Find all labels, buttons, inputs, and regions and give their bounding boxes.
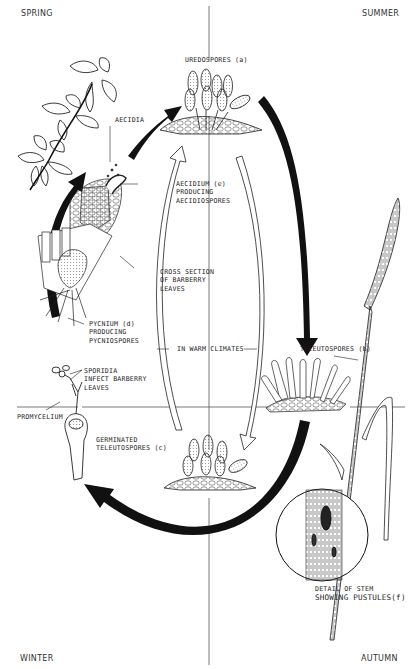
uredospores-illustration bbox=[160, 69, 262, 134]
label-aecidium-line1: AECIDIUM (e) bbox=[176, 180, 230, 188]
label-pycnium-line3: PYCNIOSPORES bbox=[89, 337, 139, 345]
pycnium-cross-section bbox=[38, 224, 112, 326]
label-warm-climates: IN WARM CLIMATES bbox=[177, 345, 244, 353]
rust-life-cycle-diagram: SPRING SUMMER WINTER AUTUMN UREDOSPORES … bbox=[0, 0, 416, 669]
label-uredospores: UREDOSPORES (a) bbox=[185, 56, 248, 64]
label-cross-section-line2: OF BARBERRY bbox=[160, 276, 214, 284]
label-cross-section-line1: CROSS SECTION bbox=[160, 268, 214, 276]
stem-detail-magnifier bbox=[276, 489, 368, 581]
label-aecidium-line2: PRODUCING bbox=[176, 188, 230, 196]
label-germinated-group: GERMINATED TELEUTOSPORES (c) bbox=[96, 436, 167, 453]
label-sporidia-line2: INFECT BARBERRY bbox=[84, 375, 147, 383]
label-aecidium-group: AECIDIUM (e) PRODUCING AECIDIOSPORES bbox=[176, 180, 230, 205]
label-sporidia-line3: LEAVES bbox=[84, 384, 147, 392]
season-label-winter: WINTER bbox=[20, 654, 54, 663]
label-stem-detail-line1: DETAIL OF STEM bbox=[315, 585, 406, 593]
label-cross-section-line3: LEAVES bbox=[160, 285, 214, 293]
label-germinated-line1: GERMINATED bbox=[96, 436, 167, 444]
label-pycnium-line1: PYCNIUM (d) bbox=[89, 320, 139, 328]
germinated-teleutospore-illustration bbox=[52, 366, 87, 481]
label-pycnium-line2: PRODUCING bbox=[89, 328, 139, 336]
label-pycnium-group: PYCNIUM (d) PRODUCING PYCNIOSPORES bbox=[89, 320, 139, 345]
label-aecidium-line3: AECIDIOSPORES bbox=[176, 197, 230, 205]
label-aecidia: AECIDIA bbox=[115, 116, 144, 124]
barberry-leaves bbox=[18, 58, 116, 190]
season-label-summer: SUMMER bbox=[362, 9, 399, 18]
label-germinated-line2: TELEUTOSPORES (c) bbox=[96, 444, 167, 452]
label-promycelium: PROMYCELIUM bbox=[17, 413, 63, 421]
season-label-autumn: AUTUMN bbox=[361, 654, 398, 663]
label-cross-section-group: CROSS SECTION OF BARBERRY LEAVES bbox=[160, 268, 214, 293]
cycle-arrows bbox=[46, 96, 318, 535]
label-stem-detail-group: DETAIL OF STEM SHOWING PUSTULES(f) bbox=[315, 585, 406, 602]
teleutospores-illustration bbox=[262, 358, 351, 413]
label-teleutospores-b: TELEUTOSPORES (b) bbox=[300, 345, 371, 353]
season-label-spring: SPRING bbox=[21, 9, 53, 18]
diagram-artwork bbox=[0, 0, 416, 669]
label-sporidia-line1: SPORIDIA bbox=[84, 367, 147, 375]
label-stem-detail-line2: SHOWING PUSTULES(f) bbox=[315, 593, 406, 602]
label-sporidia-group: SPORIDIA INFECT BARBERRY LEAVES bbox=[84, 367, 147, 392]
